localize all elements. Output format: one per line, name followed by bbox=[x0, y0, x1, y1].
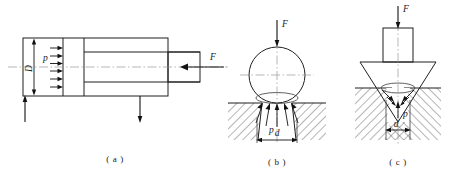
pressure-arrow bbox=[50, 77, 63, 81]
label-p-b: p bbox=[268, 125, 274, 135]
panel-c: F p bbox=[355, 4, 441, 167]
label-F-b: F bbox=[281, 19, 288, 29]
pressure-arrow bbox=[50, 61, 63, 65]
pressure-arrow bbox=[275, 103, 280, 127]
label-D: D bbox=[24, 65, 34, 73]
label-d-c: d bbox=[394, 119, 399, 129]
caption-a: ( a ) bbox=[106, 154, 124, 164]
caption-c: ( c ) bbox=[389, 157, 407, 167]
pressure-arrow bbox=[50, 69, 63, 73]
pressure-arrow bbox=[284, 103, 289, 126]
pressure-arrow bbox=[50, 85, 63, 89]
label-d-b: d bbox=[275, 128, 280, 138]
label-F-a: F bbox=[209, 52, 216, 62]
figure-canvas: D bbox=[0, 0, 461, 178]
panel-a: D bbox=[8, 38, 228, 164]
diameter-arrow-bottom bbox=[32, 90, 36, 96]
panel-b: F p bbox=[228, 19, 326, 167]
pressure-arrows-b bbox=[256, 103, 298, 128]
reaction-right-head bbox=[138, 116, 143, 123]
pressure-arrows-a bbox=[50, 46, 63, 89]
diameter-arrow-top bbox=[32, 39, 36, 45]
force-arrow-head-a bbox=[180, 64, 188, 71]
pressure-arrow bbox=[50, 46, 63, 50]
pressure-arrow bbox=[266, 103, 271, 126]
engineering-figure: D bbox=[0, 0, 461, 178]
pressure-arrow bbox=[50, 54, 63, 58]
label-F-c: F bbox=[402, 4, 409, 14]
caption-b: ( b ) bbox=[268, 157, 286, 167]
force-arrow-head-b bbox=[275, 40, 280, 47]
label-p-a: p bbox=[42, 53, 48, 63]
label-p-c: p bbox=[402, 109, 408, 119]
